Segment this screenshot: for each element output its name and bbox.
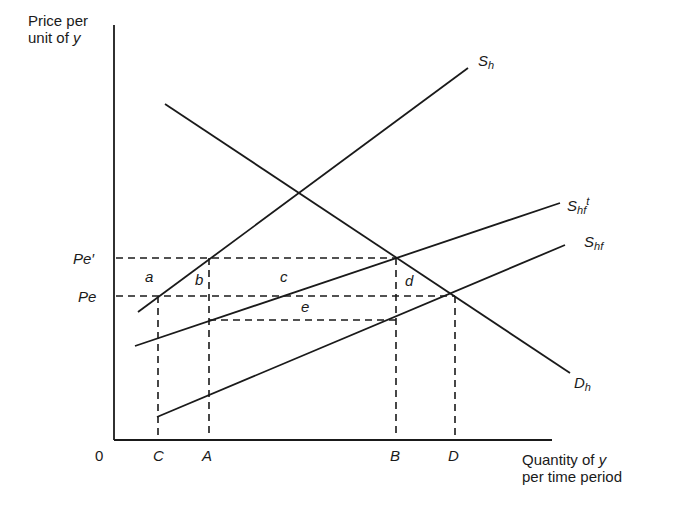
area-c: c [280, 268, 288, 285]
y-axis-label: Price per unit of y [28, 12, 88, 46]
tick-d: D [448, 447, 459, 464]
x-axis-label: Quantity of y per time period [522, 451, 622, 485]
tick-pe: Pe [78, 288, 96, 305]
y-axis-label-line1: Price per [28, 12, 88, 29]
label-dh-sub: h [585, 381, 591, 393]
x-axis-label-var: y [599, 451, 607, 468]
x-axis-label-line1: Quantity of [522, 451, 599, 468]
label-shf-tariff: Shft [567, 193, 589, 219]
label-shf-sub: hf [594, 240, 603, 252]
tick-c: C [153, 447, 164, 464]
label-shf: Shf [584, 233, 603, 255]
label-shft-main: S [567, 197, 577, 214]
tick-pe-prime: Pe′ [73, 250, 94, 267]
label-dh: Dh [574, 374, 591, 396]
y-axis-label-line2: unit of [28, 29, 73, 46]
curve-dh [165, 104, 570, 373]
curve-sh [138, 68, 468, 312]
y-axis-label-var: y [73, 29, 81, 46]
label-shf-main: S [584, 233, 594, 250]
area-e: e [301, 298, 309, 315]
label-dh-main: D [574, 374, 585, 391]
x-axis-label-line2: per time period [522, 468, 622, 485]
diagram-canvas [0, 0, 693, 515]
area-a: a [145, 268, 153, 285]
area-d: d [405, 272, 413, 289]
tick-b: B [390, 447, 400, 464]
label-shft-sub: hf [577, 204, 586, 216]
tick-a: A [202, 447, 212, 464]
label-sh-sub: h [488, 59, 494, 71]
label-shft-sup: t [586, 195, 589, 207]
origin-label: 0 [95, 447, 103, 464]
label-sh-main: S [478, 52, 488, 69]
area-b: b [195, 271, 203, 288]
label-sh: Sh [478, 52, 494, 74]
